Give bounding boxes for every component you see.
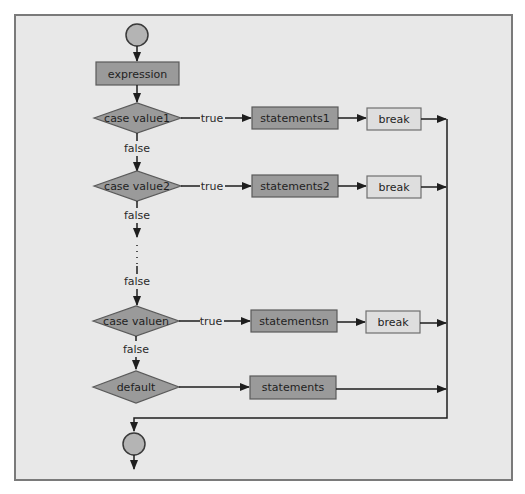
diagram-frame [15, 15, 512, 480]
case-n-true-label: true [200, 315, 223, 328]
ellipsis-false-label: false [124, 275, 150, 288]
break-n-label: break [377, 316, 409, 329]
expression-label: expression [108, 68, 167, 81]
default-label: default [117, 381, 156, 394]
case-2-true-label: true [201, 180, 224, 193]
expression-node: expression [96, 62, 179, 85]
break-2-node: break [367, 176, 421, 198]
case-1-true-label: true [201, 112, 224, 125]
break-1-label: break [378, 113, 410, 126]
default-statements-label: statements [262, 381, 325, 394]
case-2-label: case value2 [104, 180, 170, 193]
switch-flowchart: expression case value1 true statements1 … [0, 0, 525, 494]
default-statements-node: statements [250, 376, 336, 399]
case-1-false-label: false [124, 142, 150, 155]
break-n-node: break [366, 311, 420, 333]
case-2-false-label: false [124, 209, 150, 222]
break-2-label: break [378, 181, 410, 194]
case-1-label: case value1 [104, 112, 170, 125]
break-1-node: break [367, 108, 421, 130]
case-n-label: case valuen [103, 315, 169, 328]
statements-1-node: statements1 [252, 107, 338, 129]
statements-2-label: statements2 [260, 180, 329, 193]
statements-n-label: statementsn [259, 315, 328, 328]
statements-1-label: statements1 [260, 112, 329, 125]
statements-2-node: statements2 [252, 175, 338, 197]
end-node [123, 433, 145, 455]
start-node [126, 24, 148, 46]
statements-n-node: statementsn [251, 310, 337, 332]
case-n-false-label: false [123, 343, 149, 356]
